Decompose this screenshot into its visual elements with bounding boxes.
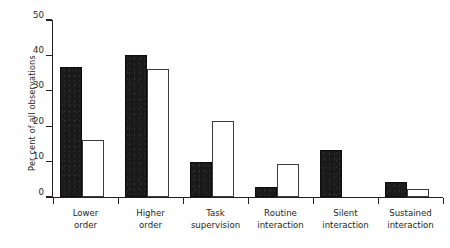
y-axis-tick-label: 40 (4, 45, 44, 55)
bar-filled-higher-order (125, 55, 147, 197)
bar-hollow-higher-order (147, 69, 169, 198)
plot-area (53, 20, 443, 197)
y-axis-tick-label: 10 (4, 151, 44, 161)
y-axis-tick (46, 19, 52, 20)
bar-filled-silent-interaction (320, 150, 342, 197)
y-axis-tick (46, 196, 52, 197)
y-axis-tick (46, 161, 52, 162)
x-axis-tick (118, 198, 119, 204)
x-axis-tick (183, 198, 184, 204)
bar-hollow-routine-interaction (277, 164, 299, 197)
y-axis-tick-label: 50 (4, 10, 44, 20)
bar-filled-lower-order (60, 67, 82, 197)
bar-chart: Per cent of all observations 01020304050… (0, 0, 450, 248)
bar-hollow-sustained-interaction (407, 189, 429, 197)
y-axis-tick-label: 30 (4, 80, 44, 90)
x-axis-tick (378, 198, 379, 204)
y-axis-tick-label: 0 (4, 187, 44, 197)
x-axis-label-sustained-interaction: Sustainedinteraction (372, 208, 449, 231)
bar-filled-sustained-interaction (385, 182, 407, 197)
x-axis-tick (443, 198, 444, 204)
bar-filled-task-supervision (190, 162, 212, 197)
label-line-2: interaction (372, 220, 449, 232)
bar-hollow-lower-order (82, 140, 104, 197)
y-axis-tick (46, 55, 52, 56)
y-axis-tick (46, 126, 52, 127)
x-axis-tick (248, 198, 249, 204)
y-axis-tick-label: 20 (4, 116, 44, 126)
x-axis-tick (313, 198, 314, 204)
x-axis-tick (53, 198, 54, 204)
bar-filled-routine-interaction (255, 187, 277, 197)
label-line-1: Sustained (372, 208, 449, 220)
y-axis-tick (46, 90, 52, 91)
bar-hollow-task-supervision (212, 121, 234, 197)
